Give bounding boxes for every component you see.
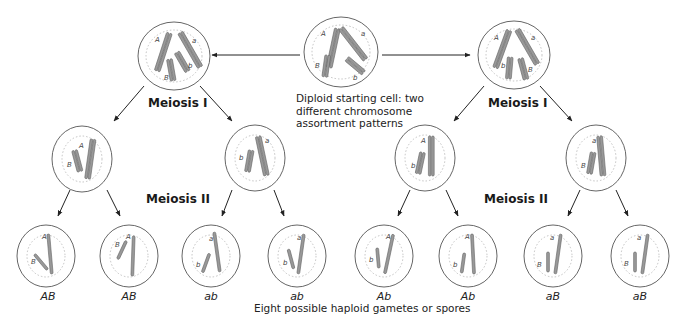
gamete-label-7: aB [546,290,560,303]
svg-text:B: B [624,260,629,268]
diploid-caption-line-1: Diploid starting cell: two [296,92,424,105]
svg-text:b: b [239,154,244,162]
svg-text:B: B [31,258,36,266]
meiosis1-right-cell: A a b B [478,21,550,89]
svg-text:a: a [297,234,301,242]
meiosis-diagram: A a B b A a B b A a b [0,0,676,317]
svg-text:a: a [192,37,196,45]
svg-text:A: A [420,137,426,145]
svg-text:b: b [283,259,288,267]
svg-text:a: a [361,30,365,38]
svg-text:a: a [209,235,213,243]
svg-text:b: b [353,74,358,82]
gamete-cell-2: B A [100,225,158,287]
svg-text:B: B [67,161,72,169]
svg-text:a: a [592,137,596,145]
svg-text:B: B [581,162,586,170]
svg-text:A: A [41,233,47,241]
diploid-caption: Diploid starting cell: two different chr… [296,92,424,130]
svg-text:B: B [164,74,169,82]
svg-text:A: A [78,142,84,150]
gamete-cell-3: b a [182,225,240,287]
gamete-cell-5: b A [355,225,413,287]
svg-text:B: B [315,62,320,70]
diagram-canvas: A a B b A a B b A a b [0,0,676,317]
svg-text:a: a [531,34,535,42]
meiosis2-left-label: Meiosis II [146,192,210,206]
gamete-cell-6: b A [439,225,497,287]
gamete-label-2: AB [121,290,136,303]
svg-text:b: b [188,62,193,70]
gamete-label-8: aB [633,290,647,303]
svg-text:B: B [115,241,120,249]
meiosis1-right-label: Meiosis I [488,96,547,110]
svg-text:A: A [320,30,326,38]
diploid-caption-line-3: assortment patterns [296,117,424,130]
meiosis2-cell-1: B A [52,126,112,192]
svg-text:b: b [411,162,416,170]
meiosis2-cell-4: B a [566,125,626,191]
meiosis1-left-label: Meiosis I [148,96,207,110]
diploid-caption-line-2: different chromosome [296,105,424,118]
meiosis1-left-cell: A a B b [138,22,210,90]
svg-text:A: A [154,36,160,44]
svg-text:b: b [196,261,201,269]
svg-text:B: B [537,261,542,269]
meiosis2-cell-2: b a [225,125,285,191]
gamete-cell-7: B a [524,225,582,287]
gamete-cell-8: B a [611,225,669,287]
svg-text:A: A [464,233,470,241]
svg-text:A: A [125,233,131,241]
gamete-label-3: ab [204,290,218,303]
svg-text:a: a [637,234,641,242]
svg-text:a: a [550,234,554,242]
svg-text:B: B [528,66,533,74]
svg-text:b: b [453,261,458,269]
gamete-label-1: AB [40,290,55,303]
svg-text:b: b [369,256,374,264]
gamete-cell-1: B A [17,225,75,287]
diploid-start-cell: A a B b [304,17,378,87]
gamete-cell-4: b a [268,225,326,287]
meiosis2-right-label: Meiosis II [484,192,548,206]
svg-text:b: b [501,62,506,70]
svg-text:a: a [265,137,269,145]
meiosis2-cell-3: b A [395,125,455,191]
bottom-caption: Eight possible haploid gametes or spores [254,302,471,315]
svg-text:A: A [493,34,499,42]
svg-text:A: A [385,233,391,241]
